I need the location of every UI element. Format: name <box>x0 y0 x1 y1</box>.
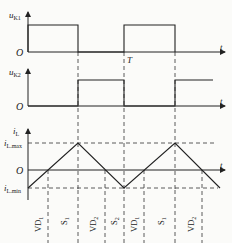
dashed-guides <box>28 52 218 243</box>
interval-label: VD2 <box>186 217 197 232</box>
iL-min-label: iL.min <box>4 183 21 194</box>
axis-label-uK1: uK1 <box>9 10 21 21</box>
iL-max-label: iL.max <box>4 138 22 149</box>
interval-labels: VD1 S1 VD2 S2 VD1 S1 VD2 <box>33 217 197 232</box>
interval-label: S1 <box>156 217 167 225</box>
panel-uK1: uK1 O t T <box>9 10 225 65</box>
t-axis-label: t <box>220 96 223 106</box>
interval-label: S2 <box>109 217 120 225</box>
interval-label: VD1 <box>33 217 44 232</box>
axis-label-uK2: uK2 <box>9 67 21 78</box>
interval-label: VD2 <box>88 217 99 232</box>
panel-iL: iL O t iL.max iL.min <box>4 126 225 200</box>
switching-waveform-diagram: uK1 O t T uK2 O t iL O t iL.max iL.min V… <box>0 0 232 243</box>
origin-label: O <box>16 47 23 58</box>
period-label: T <box>127 55 133 65</box>
interval-label: VD1 <box>129 217 140 232</box>
panel-uK2: uK2 O t <box>9 67 225 112</box>
t-axis-label: t <box>220 42 223 52</box>
origin-label: O <box>16 165 23 176</box>
axis-label-iL: iL <box>13 126 20 137</box>
t-axis-label: t <box>220 160 223 170</box>
interval-label: S1 <box>59 217 70 225</box>
origin-label: O <box>16 101 23 112</box>
